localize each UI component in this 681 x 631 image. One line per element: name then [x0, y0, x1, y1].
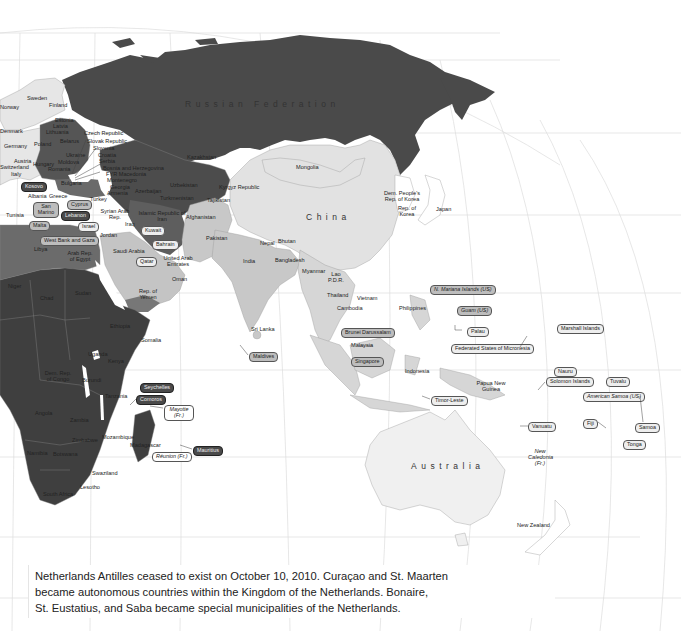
- label-madagascar: Madagascar: [130, 442, 161, 448]
- callout-solomon: Solomon Islands: [546, 377, 594, 387]
- label-vietnam: Vietnam: [357, 295, 377, 301]
- label-iran: Islamic Republic of Iran: [137, 210, 187, 222]
- label-dprk: Dem. People's Rep. of Korea: [381, 190, 423, 202]
- callout-bahrain: Bahrain: [152, 240, 179, 250]
- label-png: Papua New Guinea: [476, 380, 506, 392]
- label-azerbaijan: Azerbaijan: [135, 188, 161, 194]
- label-somalia: Somalia: [141, 337, 161, 343]
- label-kazakhstan: Kazakhstan: [187, 154, 216, 160]
- label-sweden: Sweden: [27, 95, 47, 101]
- label-niger: Niger: [8, 283, 21, 289]
- label-germany: Germany: [4, 143, 27, 149]
- label-egypt: Arab Rep. of Egypt: [66, 250, 94, 262]
- label-pakistan: Pakistan: [206, 235, 227, 241]
- label-armenia: Armenia: [107, 190, 128, 196]
- label-drc: Dem. Rep. of Congo: [43, 370, 73, 382]
- callout-micronesia: Federated States of Micronesia: [451, 344, 534, 354]
- label-tanzania: Tanzania: [105, 393, 127, 399]
- caption-line-2: became autonomous countries within the K…: [35, 584, 555, 600]
- label-slovenia: Slovenia: [93, 145, 114, 151]
- map-caption: Netherlands Antilles ceased to exist on …: [28, 565, 555, 618]
- label-philippines: Philippines: [399, 305, 426, 311]
- callout-vanuatu: Vanuatu: [528, 422, 556, 432]
- label-sudan: Sudan: [75, 290, 91, 296]
- callout-timor: Timor-Leste: [431, 396, 468, 406]
- label-lesotho: Lesotho: [80, 484, 100, 490]
- callout-kosovo: Kosovo: [21, 182, 47, 192]
- label-ukraine: Ukraine: [66, 152, 85, 158]
- label-libya: Libya: [34, 246, 47, 252]
- label-afghanistan: Afghanistan: [186, 214, 216, 220]
- label-bulgaria: Bulgaria: [61, 180, 82, 186]
- label-cambodia: Cambodia: [337, 305, 363, 311]
- label-namibia: Namibia: [27, 450, 48, 456]
- label-uzbekistan: Uzbekistan: [170, 182, 198, 188]
- label-south-africa: South Africa: [43, 491, 73, 497]
- label-bhutan: Bhutan: [278, 238, 296, 244]
- label-japan: Japan: [436, 206, 451, 212]
- label-korea: Rep. of Korea: [396, 205, 418, 217]
- label-india: India: [243, 258, 255, 264]
- callout-malta: Malta: [29, 221, 50, 231]
- callout-lebanon: Lebanon: [61, 211, 90, 221]
- label-romania: Romania: [48, 166, 70, 172]
- label-denmark: Denmark: [0, 128, 23, 134]
- label-czech: Czech Republic: [84, 130, 123, 136]
- label-zambia: Zambia: [70, 417, 89, 423]
- label-tunisia: Tunisia: [6, 212, 24, 218]
- label-syria: Syrian Arab Rep.: [99, 208, 131, 220]
- callout-seychelles: Seychelles: [140, 383, 174, 393]
- label-chad: Chad: [40, 295, 53, 301]
- callout-tuvalu: Tuvalu: [606, 377, 630, 387]
- label-burundi: Burundi: [82, 377, 101, 383]
- callout-american-samoa: American Samoa (US): [583, 392, 645, 402]
- label-lao: Lao P.D.R.: [326, 271, 346, 283]
- callout-n-mariana: N. Mariana Islands (US): [430, 285, 496, 295]
- callout-guam: Guam (US): [457, 306, 492, 316]
- label-albania: Albania: [28, 193, 47, 199]
- label-lithuania: Lithuania: [46, 129, 69, 135]
- label-new-zealand: New Zealand: [517, 522, 550, 528]
- label-thailand: Thailand: [327, 292, 348, 298]
- callout-marshall: Marshall Islands: [557, 324, 604, 334]
- label-italy: Italy: [11, 171, 21, 177]
- callout-west-bank: West Bank and Gaza: [40, 236, 99, 246]
- label-sri-lanka: Sri Lanka: [251, 326, 275, 332]
- label-montenegro: Montenegro: [107, 177, 137, 183]
- callout-brunei: Brunei Darussalam: [341, 328, 395, 338]
- label-china: China: [306, 213, 351, 222]
- label-ethiopia: Ethiopia: [110, 323, 130, 329]
- label-slovak: Slovak Republic: [87, 138, 127, 144]
- label-belarus: Belarus: [60, 138, 79, 144]
- label-zimbabwe: Zimbabwe: [72, 437, 98, 443]
- callout-nauru: Nauru: [554, 367, 577, 377]
- label-mozambique: Mozambique: [102, 434, 134, 440]
- callout-reunion: Réunion (Fr.): [152, 452, 192, 462]
- callout-cyprus: Cyprus: [67, 200, 92, 210]
- label-botswana: Botswana: [53, 451, 78, 457]
- callout-qatar: Qatar: [136, 257, 157, 267]
- callout-san-marino: San Marino: [33, 202, 59, 218]
- label-yemen: Rep. of Yemen: [137, 288, 159, 300]
- label-tajikistan: Tajikistan: [207, 197, 230, 203]
- callout-fiji: Fiji: [583, 419, 598, 429]
- label-iraq: Iraq: [125, 221, 135, 227]
- label-greece: Greece: [49, 193, 67, 199]
- label-swaziland: Swaziland: [92, 470, 118, 476]
- label-finland: Finland: [49, 102, 67, 108]
- caption-line-3: St. Eustatius, and Saba became special m…: [35, 600, 555, 616]
- caption-line-1: Netherlands Antilles ceased to exist on …: [35, 568, 555, 584]
- label-uganda: Uganda: [88, 351, 108, 357]
- callout-tonga: Tonga: [623, 440, 646, 450]
- label-jordan: Jordan: [100, 232, 117, 238]
- label-poland: Poland: [34, 141, 51, 147]
- label-kenya: Kenya: [108, 358, 124, 364]
- label-moldova: Moldova: [58, 159, 79, 165]
- label-angola: Angola: [35, 410, 52, 416]
- callout-israel: Israel: [78, 222, 99, 232]
- callout-palau: Palau: [467, 327, 489, 337]
- label-australia: Australia: [411, 462, 485, 471]
- label-bangladesh: Bangladesh: [275, 257, 305, 263]
- label-saudi: Saudi Arabia: [113, 248, 145, 254]
- label-russia: Russian Federation: [185, 100, 340, 109]
